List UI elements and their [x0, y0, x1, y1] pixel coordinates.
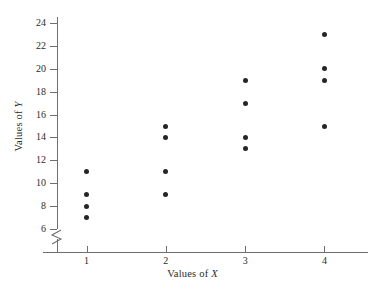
data-point	[243, 146, 248, 151]
axis-break-icon	[48, 228, 68, 246]
y-axis-tick-label: 14	[20, 132, 46, 142]
y-axis-tick	[50, 46, 57, 47]
x-axis-tick	[166, 246, 167, 253]
y-axis-tick	[50, 229, 57, 230]
data-point	[84, 204, 89, 209]
data-point	[243, 135, 248, 140]
x-axis-tick-label: 4	[312, 256, 336, 266]
y-axis-tick-label: 22	[20, 41, 46, 51]
y-axis-tick-label: 16	[20, 110, 46, 120]
x-axis-label: Values of X	[0, 268, 385, 279]
x-axis-tick	[87, 246, 88, 253]
y-axis-label-variable: Y	[13, 101, 24, 107]
y-axis-tick-label: 24	[20, 18, 46, 28]
y-axis-tick	[50, 92, 57, 93]
data-point	[163, 135, 168, 140]
y-axis-tick-label: 12	[20, 155, 46, 165]
data-point	[322, 32, 327, 37]
x-axis-tick-label: 2	[154, 256, 178, 266]
data-point	[163, 124, 168, 129]
y-axis-tick	[50, 206, 57, 207]
y-axis-tick	[50, 115, 57, 116]
y-axis-tick-label: 20	[20, 64, 46, 74]
y-axis-tick	[50, 23, 57, 24]
y-axis-tick-label: 18	[20, 87, 46, 97]
x-axis-tick	[245, 246, 246, 253]
data-point	[243, 101, 248, 106]
x-axis-tick-label: 3	[233, 256, 257, 266]
x-axis-tick	[324, 246, 325, 253]
data-point	[163, 169, 168, 174]
x-axis-tick-label: 1	[75, 256, 99, 266]
data-point	[322, 78, 327, 83]
y-axis-line	[57, 17, 58, 229]
data-point	[322, 124, 327, 129]
x-axis-label-variable: X	[211, 268, 218, 279]
y-axis-tick	[50, 69, 57, 70]
scatter-plot: Values of Y Values of X 6810121416182022…	[0, 0, 385, 296]
data-point	[84, 169, 89, 174]
y-axis-tick	[50, 137, 57, 138]
data-point	[84, 192, 89, 197]
data-point	[322, 66, 327, 71]
y-axis-tick	[50, 183, 57, 184]
y-axis-tick	[50, 160, 57, 161]
y-axis-tick-label: 6	[20, 224, 46, 234]
data-point	[84, 215, 89, 220]
data-point	[163, 192, 168, 197]
y-axis-tick-label: 10	[20, 178, 46, 188]
y-axis-tick-label: 8	[20, 201, 46, 211]
data-point	[243, 78, 248, 83]
x-axis-line	[43, 252, 368, 253]
x-axis-label-text: Values of	[167, 268, 211, 279]
